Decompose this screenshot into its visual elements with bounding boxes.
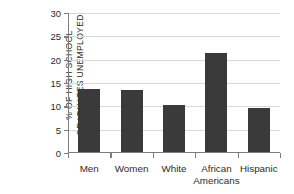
y-tick-mark (64, 83, 69, 84)
y-tick-mark (64, 60, 69, 61)
x-axis-label-line: Men (80, 163, 99, 175)
bar (121, 90, 143, 152)
x-axis-label: Hispanic (240, 163, 278, 175)
x-axis-label-line: Hispanic (240, 163, 278, 175)
x-tick-mark (153, 153, 154, 158)
x-axis-label-line: African (193, 163, 239, 175)
gridline (68, 13, 280, 14)
y-tick-label: 20 (50, 54, 61, 65)
x-axis-label: Women (115, 163, 149, 175)
x-axis-label-line: White (161, 163, 186, 175)
y-tick-mark (64, 36, 69, 37)
bar (163, 105, 185, 152)
x-tick-mark (68, 153, 69, 158)
y-tick-mark (64, 13, 69, 14)
bar-chart-figure: % OF HIGH SCHOOL GRADUATES UNEMPLOYED 05… (0, 0, 294, 194)
y-tick-label: 15 (50, 78, 61, 89)
plot-area: 051015202530 MenWomenWhiteAfricanAmerica… (68, 13, 280, 153)
x-tick-mark (110, 153, 111, 158)
y-tick-label: 30 (50, 8, 61, 19)
x-axis-label: Men (80, 163, 99, 175)
y-tick-label: 25 (50, 31, 61, 42)
gridline (68, 36, 280, 37)
y-tick-mark (64, 130, 69, 131)
y-tick-label: 0 (56, 148, 61, 159)
bar (78, 89, 100, 152)
y-tick-label: 10 (50, 101, 61, 112)
x-axis-label: White (161, 163, 186, 175)
bar (248, 108, 270, 152)
gridline (68, 60, 280, 61)
gridline (68, 83, 280, 84)
x-axis-label-line: Americans (193, 175, 239, 187)
x-tick-mark (195, 153, 196, 158)
x-axis-label-line: Women (115, 163, 149, 175)
x-axis-label: AfricanAmericans (193, 163, 239, 186)
y-tick-mark (64, 106, 69, 107)
bar (205, 53, 227, 152)
x-tick-mark (280, 153, 281, 158)
y-tick-label: 5 (56, 124, 61, 135)
x-axis-line (68, 152, 280, 153)
x-tick-mark (238, 153, 239, 158)
